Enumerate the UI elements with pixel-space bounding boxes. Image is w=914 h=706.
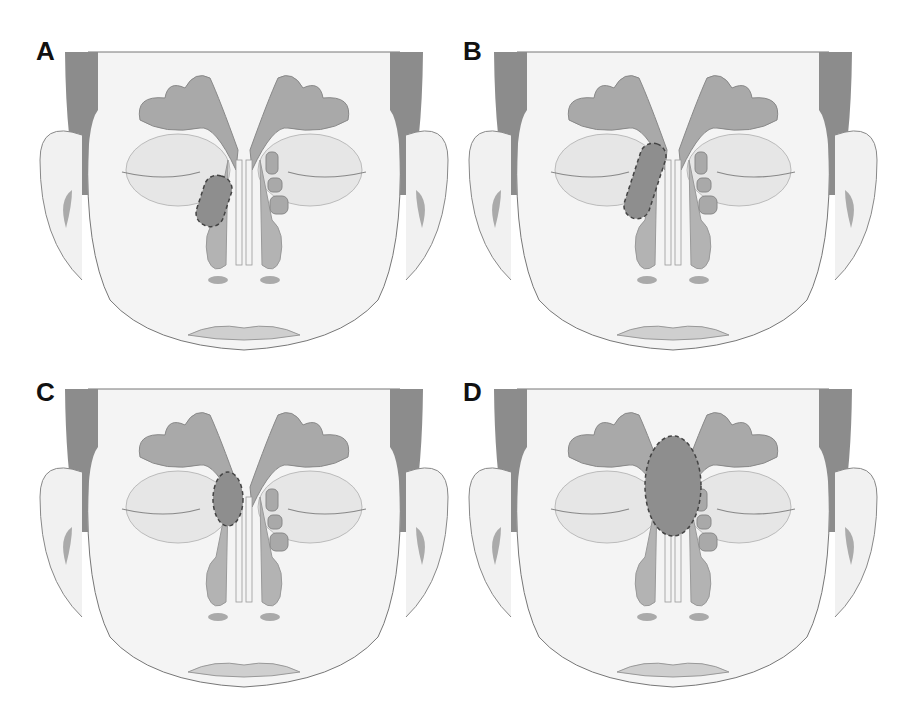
panel-c: C — [0, 353, 457, 706]
face-illustration — [457, 353, 914, 706]
highlight-region — [213, 472, 243, 526]
panel-label: C — [36, 377, 55, 408]
panel-d: D — [457, 353, 914, 706]
panel-a: A — [0, 0, 457, 353]
face-illustration — [457, 0, 914, 353]
face-illustration — [0, 353, 457, 706]
panel-label: A — [36, 36, 55, 67]
panel-label: D — [463, 377, 482, 408]
panel-label: B — [463, 36, 482, 67]
panel-b: B — [457, 0, 914, 353]
face-illustration — [0, 0, 457, 353]
highlight-region — [645, 436, 701, 536]
